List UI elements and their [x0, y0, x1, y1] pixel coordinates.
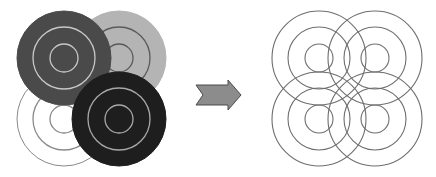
target-ring [288, 27, 350, 89]
target-ring [328, 72, 422, 166]
target-ring [344, 88, 406, 150]
outlined-targets-group [272, 11, 422, 166]
target-ring [272, 72, 366, 166]
target-bottom-right [72, 72, 166, 166]
outline-target-bottom-left [272, 72, 366, 166]
target-ring [272, 11, 366, 105]
target-ring [344, 27, 406, 89]
outline-target-bottom-right [328, 72, 422, 166]
outline-target-top-left [272, 11, 366, 105]
target-ring [288, 88, 350, 150]
target-ring [361, 44, 389, 72]
outline-target-top-right [328, 11, 422, 105]
filled-targets-group [17, 11, 166, 166]
arrow-right-icon [196, 80, 241, 110]
target-disc [72, 72, 166, 166]
target-ring [328, 11, 422, 105]
target-ring [361, 105, 389, 133]
diagram-canvas [0, 0, 436, 177]
